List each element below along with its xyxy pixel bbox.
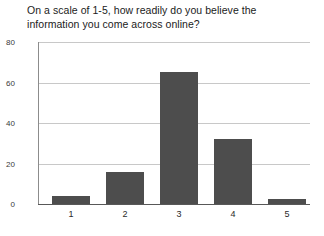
y-tick-label-60: 60 (0, 79, 15, 88)
y-tick-label-0: 0 (0, 200, 15, 209)
bar-slot: 4 (206, 42, 260, 204)
bar-category-5[interactable] (268, 199, 306, 204)
y-axis-line (38, 42, 39, 205)
bar-slot: 2 (98, 42, 152, 204)
x-tick-label-2: 2 (98, 209, 152, 219)
x-tick-label-1: 1 (44, 209, 98, 219)
bar-category-3[interactable] (160, 72, 198, 204)
bar-chart-figure: On a scale of 1-5, how readily do you be… (0, 0, 324, 236)
bar-category-1[interactable] (52, 196, 90, 204)
bar-slot: 3 (152, 42, 206, 204)
x-tick-label-4: 4 (206, 209, 260, 219)
y-tick-label-80: 80 (0, 38, 15, 47)
chart-title: On a scale of 1-5, how readily do you be… (27, 3, 309, 31)
chart-title-line-1: On a scale of 1-5, how readily do you be… (27, 3, 309, 17)
chart-title-line-2: information you come across online? (27, 17, 309, 31)
y-tick-label-40: 40 (0, 119, 15, 128)
bar-category-2[interactable] (106, 172, 144, 204)
plot-area: 80 60 40 20 0 1 2 3 4 5 (38, 42, 310, 204)
x-axis-line (38, 204, 310, 205)
x-tick-label-3: 3 (152, 209, 206, 219)
bar-category-4[interactable] (214, 139, 252, 204)
x-tick-label-5: 5 (260, 209, 314, 219)
y-tick-label-20: 20 (0, 160, 15, 169)
bar-slot: 1 (44, 42, 98, 204)
bar-slot: 5 (260, 42, 314, 204)
